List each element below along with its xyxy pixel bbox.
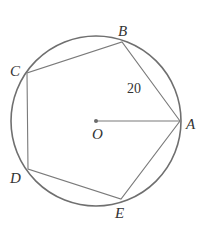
label-a: A [185,116,196,132]
pentagon-circle-diagram: A B C D E O 20 [0,0,206,239]
label-o: O [92,126,103,142]
label-e: E [114,205,124,221]
side-length-label: 20 [127,81,141,96]
label-d: D [9,170,21,186]
center-point-o [94,119,98,123]
label-c: C [10,63,21,79]
label-b: B [118,23,127,39]
